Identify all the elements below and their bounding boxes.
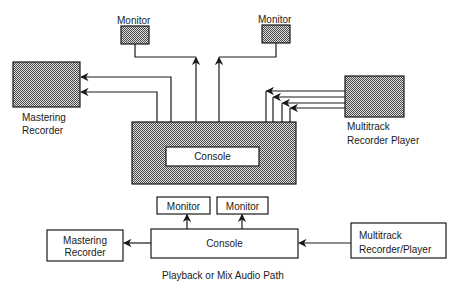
monitor-bottom-2-label: Monitor <box>226 201 260 212</box>
recording-path-diagram: Monitor Monitor Mastering Recorder <box>13 14 420 184</box>
multitrack-recorder-bottom: Multitrack Recorder/Player <box>351 223 446 258</box>
multitrack-recorder-bottom-label-line2: Recorder/Player <box>359 244 432 255</box>
monitor-left-label: Monitor <box>117 15 151 26</box>
monitor-right-connector <box>219 43 276 57</box>
monitor-bottom-1-label: Monitor <box>167 201 201 212</box>
monitor-right-box <box>262 25 290 43</box>
multitrack-recorder-top: Multitrack Recorder Player <box>345 76 420 146</box>
console-top-label: Console <box>194 151 231 162</box>
multitrack-recorder-top-label-line1: Multitrack <box>347 121 391 132</box>
multitrack-recorder-top-label-line2: Recorder Player <box>347 135 420 146</box>
diagram-caption: Playback or Mix Audio Path <box>162 270 284 281</box>
monitor-left-box <box>121 26 149 44</box>
mastering-recorder-bottom: Mastering Recorder <box>47 230 123 261</box>
mastering-recorder-top-label-line2: Recorder <box>22 125 64 136</box>
console-top: Console <box>132 122 296 184</box>
monitor-right-label: Monitor <box>258 14 292 25</box>
mastering-recorder-top-label-line1: Mastering <box>22 112 66 123</box>
mastering-recorder-top: Mastering Recorder <box>13 62 80 136</box>
monitor-left-connector <box>135 44 196 57</box>
multitrack-recorder-top-box <box>345 76 404 117</box>
multitrack-recorder-bottom-label-line1: Multitrack <box>359 230 403 241</box>
monitor-right: Monitor <box>258 14 292 43</box>
console-bottom: Console <box>151 229 298 258</box>
mastering-recorder-top-box <box>13 62 80 107</box>
console-bottom-label: Console <box>206 238 243 249</box>
playback-mix-path-diagram: Monitor Monitor Console Mastering Record… <box>47 197 446 281</box>
console-to-mastering-arrow-2 <box>81 92 157 122</box>
audio-path-diagram: Monitor Monitor Mastering Recorder <box>0 0 458 288</box>
monitor-left: Monitor <box>117 15 151 44</box>
monitor-bottom-2: Monitor <box>217 197 268 214</box>
mastering-recorder-bottom-label-line2: Recorder <box>64 247 106 258</box>
mastering-recorder-bottom-label-line1: Mastering <box>63 235 107 246</box>
monitor-bottom-1: Monitor <box>157 197 210 214</box>
